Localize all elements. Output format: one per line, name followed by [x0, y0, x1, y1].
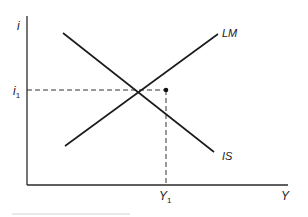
x-axis-label: Y [281, 189, 290, 203]
y1-label: Y1 [159, 189, 172, 205]
i1-label: i1 [13, 84, 21, 100]
islm-diagram: i i1 LM IS Y1 Y [0, 0, 308, 217]
y-axis-label: i [17, 19, 20, 33]
equilibrium-point [164, 88, 169, 93]
is-label: IS [222, 150, 233, 162]
lm-label: LM [222, 27, 238, 39]
is-curve [63, 33, 214, 152]
